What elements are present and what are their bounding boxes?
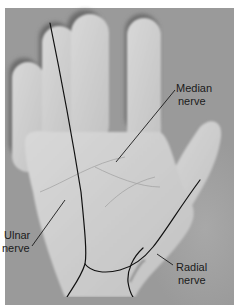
hand-illustration: Median nerve Ulnar nerve Radial nerve <box>0 0 229 297</box>
median-label-line1: Median <box>176 82 212 94</box>
hand-shape <box>12 14 221 297</box>
middle-finger <box>71 14 109 144</box>
radial-nerve-label: Radial nerve <box>176 261 207 286</box>
radial-label-line2: nerve <box>178 274 206 286</box>
median-nerve-label: Median nerve <box>176 82 212 107</box>
ulnar-nerve-label: Ulnar nerve <box>2 229 31 254</box>
ulnar-label-line2: nerve <box>2 242 30 254</box>
median-label-line2: nerve <box>178 95 206 107</box>
radial-label-line1: Radial <box>176 261 207 273</box>
ulnar-label-line1: Ulnar <box>4 229 31 241</box>
